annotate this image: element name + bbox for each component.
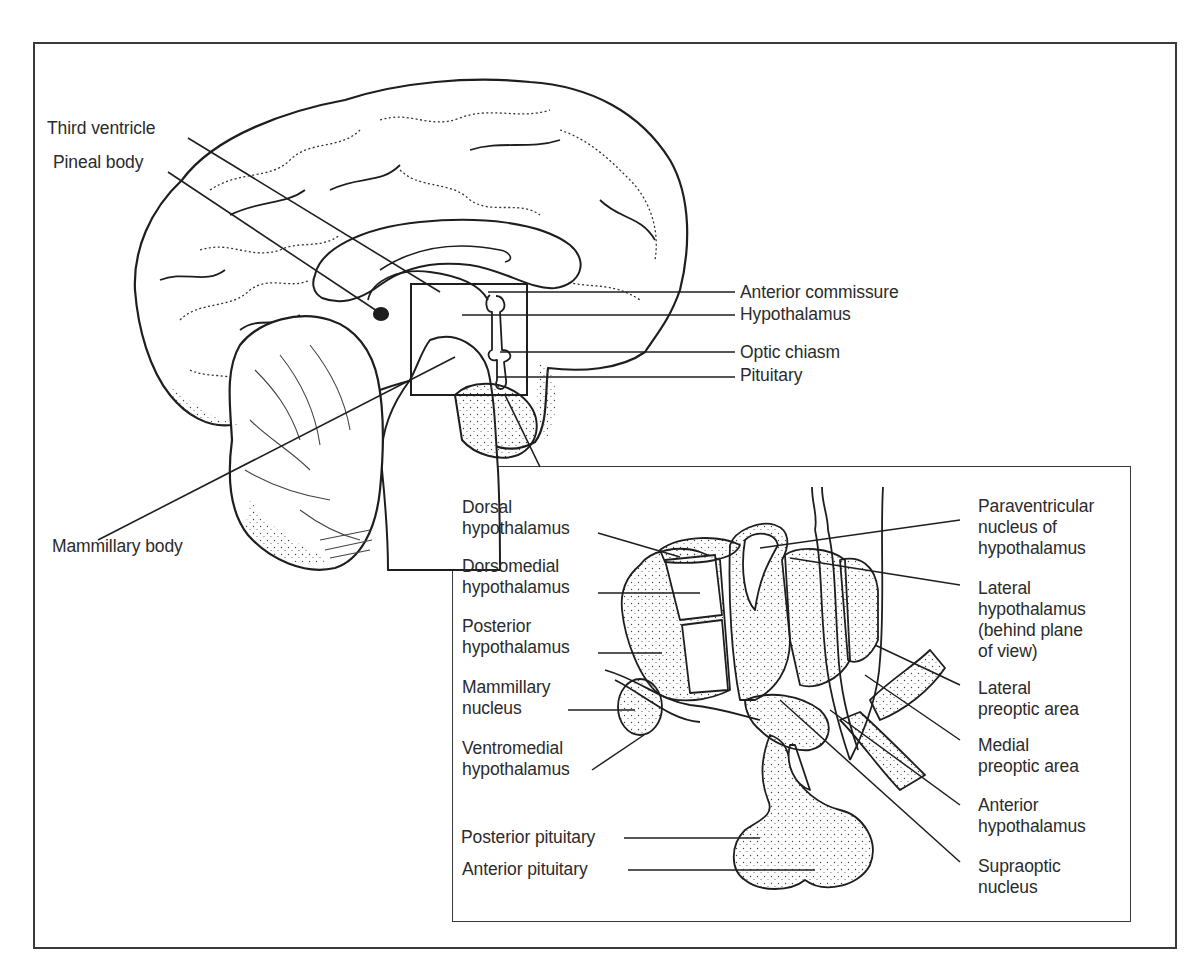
label-pineal-body: Pineal body [53, 152, 143, 173]
label-anterior-hypothalamus: Anterior hypothalamus [978, 795, 1086, 837]
label-mammillary-body: Mammillary body [52, 536, 183, 557]
label-optic-chiasm: Optic chiasm [740, 342, 840, 363]
label-anterior-pituitary: Anterior pituitary [462, 859, 588, 880]
label-paraventricular-nucleus: Paraventricular nucleus of hypothalamus [978, 496, 1094, 559]
mammillary-nucleus-shape [618, 679, 662, 735]
label-supraoptic-nucleus: Supraoptic nucleus [978, 856, 1061, 898]
label-dorsomedial-hypothalamus: Dorsomedial hypothalamus [462, 556, 570, 598]
label-third-ventricle: Third ventricle [47, 118, 155, 139]
label-medial-preoptic-area: Medial preoptic area [978, 735, 1079, 777]
pituitary-gland [734, 735, 873, 889]
inset-hypothalamus-drawing [605, 487, 945, 889]
label-mammillary-nucleus: Mammillary nucleus [462, 677, 550, 719]
label-anterior-commissure: Anterior commissure [740, 282, 899, 303]
label-pituitary: Pituitary [740, 365, 802, 386]
hypothalamus-figure: Third ventricle Pineal body Mammillary b… [0, 0, 1202, 975]
label-hypothalamus: Hypothalamus [740, 304, 851, 325]
label-ventromedial-hypothalamus: Ventromedial hypothalamus [462, 738, 570, 780]
label-posterior-hypothalamus: Posterior hypothalamus [462, 616, 570, 658]
label-lateral-hypothalamus: Lateral hypothalamus (behind plane of vi… [978, 578, 1086, 662]
label-posterior-pituitary: Posterior pituitary [461, 827, 595, 848]
label-dorsal-hypothalamus: Dorsal hypothalamus [462, 497, 570, 539]
label-lateral-preoptic-area: Lateral preoptic area [978, 678, 1079, 720]
